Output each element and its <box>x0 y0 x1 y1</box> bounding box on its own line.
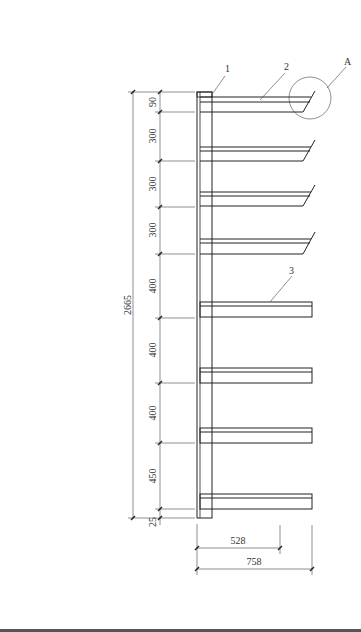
dim-spacing-6: 400 <box>147 343 158 358</box>
dimension-lines <box>131 90 314 571</box>
dim-spacing-2: 300 <box>147 129 158 144</box>
dim-total: 2665 <box>122 295 133 315</box>
arm-4 <box>200 232 315 254</box>
callout-a: A <box>344 56 352 67</box>
arm-7 <box>200 428 312 443</box>
dim-spacing-8: 450 <box>147 469 158 484</box>
arm-2 <box>200 140 315 161</box>
dimension-labels: 2665 90 300 300 300 400 400 400 450 25 5… <box>122 97 262 567</box>
detail-circle-a <box>289 77 331 119</box>
dim-spacing-1: 90 <box>147 97 158 107</box>
arm-6 <box>200 368 312 383</box>
dim-arm-short: 528 <box>231 535 246 546</box>
dim-spacing-4: 300 <box>147 223 158 238</box>
arm-3 <box>200 185 315 206</box>
callout-2: 2 <box>284 61 289 72</box>
dim-spacing-5: 400 <box>147 279 158 294</box>
rack-drawing: 1 2 3 A <box>0 0 361 632</box>
arm-5 <box>200 302 312 317</box>
dim-spacing-9: 25 <box>147 517 158 527</box>
dim-arm-long: 758 <box>247 556 262 567</box>
dim-spacing-7: 400 <box>147 406 158 421</box>
column <box>197 92 212 518</box>
straight-arms <box>200 302 312 509</box>
dim-spacing-3: 300 <box>147 177 158 192</box>
sloped-arms <box>200 91 315 254</box>
extension-lines <box>128 92 312 575</box>
callout-3: 3 <box>289 265 294 276</box>
arm-8 <box>200 494 312 509</box>
arm-1 <box>200 91 315 112</box>
callout-1: 1 <box>225 63 230 74</box>
